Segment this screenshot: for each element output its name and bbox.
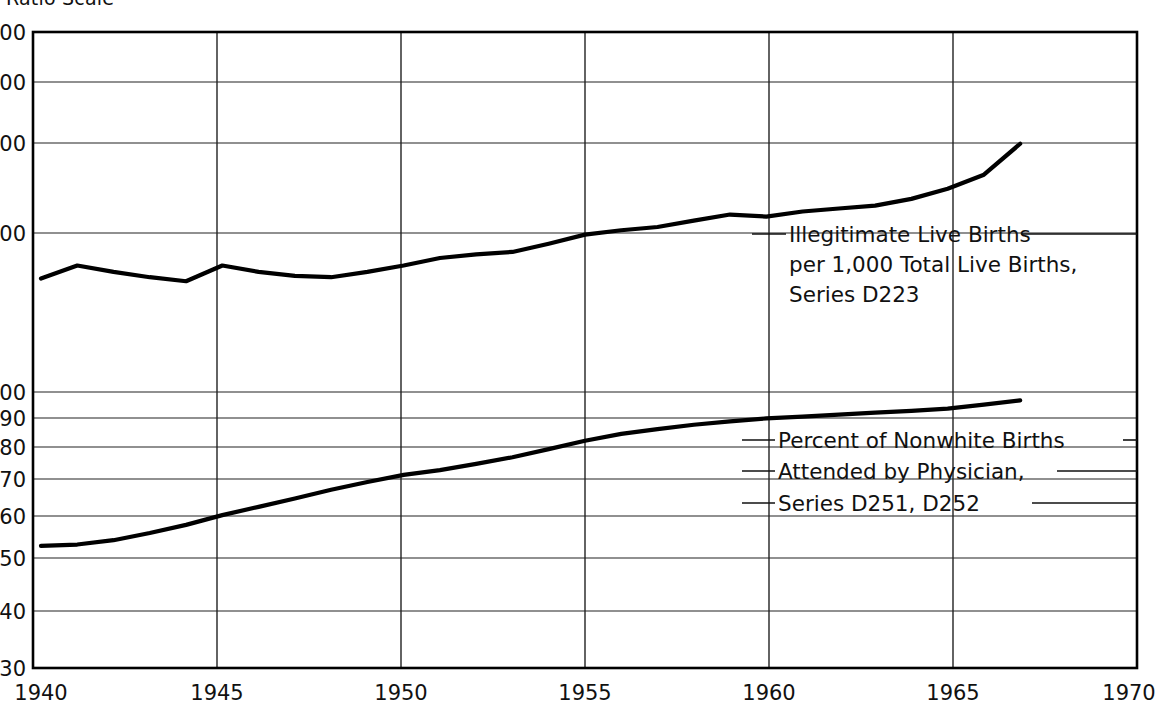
x-tick-1965: 1965 xyxy=(926,681,979,705)
x-tick-labels: 1940 1945 1950 1955 1960 1965 1970 xyxy=(14,681,1155,705)
y-tick-200: 200 xyxy=(0,222,26,246)
x-tick-1970: 1970 xyxy=(1102,681,1155,705)
annotation-lower-line2: Attended by Physician, xyxy=(778,459,1025,484)
annotation-lower-line3: Series D251, D252 xyxy=(778,491,980,516)
x-tick-1945: 1945 xyxy=(190,681,243,705)
annotation-lower-line1: Percent of Nonwhite Births xyxy=(778,428,1065,453)
x-tick-1955: 1955 xyxy=(558,681,611,705)
y-tick-100: 100 xyxy=(0,381,26,405)
y-tick-400: 400 xyxy=(0,71,26,95)
y-tick-80: 80 xyxy=(0,436,26,460)
y-tick-90: 90 xyxy=(0,407,26,431)
annotation-upper-line1: Illegitimate Live Births xyxy=(789,222,1031,247)
annotation-upper-line3: Series D223 xyxy=(789,282,920,307)
y-tick-300: 300 xyxy=(0,132,26,156)
figure-stage: Ratio Scale 500 400 xyxy=(0,0,1168,714)
annotation-lower: Percent of Nonwhite Births Attended by P… xyxy=(778,428,1065,516)
y-tick-70: 70 xyxy=(0,468,26,492)
y-tick-50: 50 xyxy=(0,547,26,571)
x-tick-1960: 1960 xyxy=(742,681,795,705)
y-tick-60: 60 xyxy=(0,505,26,529)
x-gridlines xyxy=(217,32,953,668)
annotation-upper-line2: per 1,000 Total Live Births, xyxy=(789,252,1077,277)
x-tick-1940: 1940 xyxy=(14,681,67,705)
y-tick-500: 500 xyxy=(0,21,26,45)
y-tick-40: 40 xyxy=(0,600,26,624)
x-tick-1950: 1950 xyxy=(374,681,427,705)
chart-svg: 500 400 300 200 100 90 80 70 60 50 40 30… xyxy=(0,0,1168,714)
y-tick-30: 30 xyxy=(0,657,26,681)
y-tick-labels: 500 400 300 200 100 90 80 70 60 50 40 30 xyxy=(0,21,26,681)
